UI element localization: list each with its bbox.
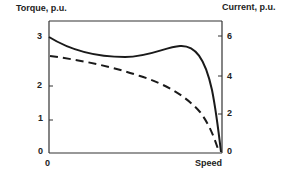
torque-curve xyxy=(49,37,221,152)
torque-current-chart xyxy=(0,0,290,177)
right-tick-0: 0 xyxy=(227,146,232,156)
x-axis-label: Speed xyxy=(195,158,222,168)
current-curve xyxy=(50,56,219,152)
torque-axis-label: Torque, p.u. xyxy=(16,3,67,13)
right-tick-2: 2 xyxy=(227,108,232,118)
left-tick-0: 0 xyxy=(38,146,43,156)
right-tick-6: 6 xyxy=(227,31,232,41)
right-tick-4: 4 xyxy=(227,71,232,81)
left-tick-3: 3 xyxy=(37,31,42,41)
x-tick-0: 0 xyxy=(45,158,50,168)
left-tick-1: 1 xyxy=(38,113,43,123)
current-axis-label: Current, p.u. xyxy=(222,2,276,12)
left-tick-2: 2 xyxy=(37,80,42,90)
